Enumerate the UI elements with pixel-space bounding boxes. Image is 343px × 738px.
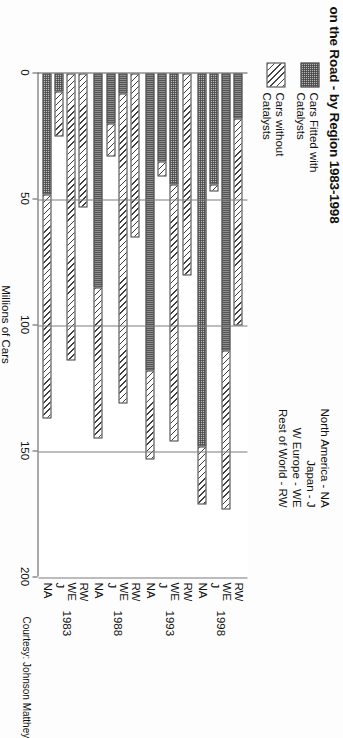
category-label-region: WE [65,582,77,601]
region-key-line: North America - NA [317,408,331,507]
category-label-region: WE [220,582,232,601]
courtesy-note: Courtesy: Johnson Matthey [20,616,31,738]
segment-without [197,446,206,504]
segment-fitted [197,73,206,446]
category-label-region: WE [168,582,180,601]
bar-1983-RW [78,73,87,207]
category-label-year: 1993 [163,610,175,636]
segment-without [182,73,191,275]
axis-tick [32,72,37,73]
segment-fitted [106,73,115,123]
segment-fitted [209,73,218,184]
axis-tick [32,450,37,451]
segment-without [169,184,178,441]
category-label-year: 1998 [214,610,226,636]
gridline [38,577,247,578]
gridline [38,325,247,326]
region-key-line: Japan - J [303,408,317,507]
bar-1998-NA [197,73,206,504]
segment-without [233,118,242,325]
legend-label-fitted: Cars Fitted with Catalysts [294,92,319,172]
segment-without [54,91,63,136]
segment-without [42,194,51,418]
region-key-line: W Europe - WE [289,408,303,507]
category-label-year: 1988 [111,610,123,636]
bar-1983-WE [66,73,75,360]
segment-fitted [221,73,230,350]
segment-fitted [42,73,51,194]
segment-fitted [169,73,178,184]
segment-without [78,73,87,207]
chart-legend: Cars Fitted with Catalysts Cars without … [251,62,319,172]
bar-bands [38,73,247,576]
category-label-region: J [105,582,117,588]
axis-tick [32,198,37,199]
region-key: North America - NA Japan - J W Europe - … [275,408,331,507]
bar-1983-NA [42,73,51,418]
category-label-region: RW [232,582,244,601]
legend-label-without: Cars without Catalysts [260,92,285,156]
category-label-region: NA [196,582,208,598]
category-label-region: NA [41,582,53,598]
axis-title: Millions of Cars [0,72,11,576]
bar-1988-RW [130,73,139,237]
category-label-region: J [156,582,168,588]
bar-1993-NA [145,73,154,459]
axis-tick-label: 100 [18,314,30,333]
segment-fitted [118,73,127,93]
category-label-region: J [53,582,65,588]
category-label-region: RW [77,582,89,601]
category-label-region: RW [129,582,141,601]
category-label-year: 1983 [60,610,72,636]
legend-item: Cars without Catalysts [260,62,285,172]
axis-tick-label: 200 [18,566,30,585]
legend-item: Cars Fitted with Catalysts [294,62,319,172]
region-key-line: Rest of World - RW [275,408,289,507]
category-label-region: NA [92,582,104,598]
gridline [38,199,247,200]
segment-without [130,73,139,237]
bar-1993-RW [182,73,191,275]
segment-without [118,93,127,403]
bar-1998-J [209,73,218,191]
segment-fitted [93,73,102,287]
gridline [38,451,247,452]
segment-fitted [233,73,242,118]
segment-without [145,370,154,458]
chart-title: on the Road - by Region 1983-1998 [326,6,341,476]
axis-tick [32,576,37,577]
axis-tick-label: 0 [18,69,30,75]
category-label-region: WE [117,582,129,601]
legend-swatch-fitted-icon [300,62,319,87]
bar-1998-WE [221,73,230,509]
segment-fitted [54,73,63,91]
segment-fitted [157,73,166,161]
legend-swatch-without-icon [266,62,285,87]
segment-without [209,184,218,192]
segment-without [106,123,115,156]
bar-1993-J [157,73,166,176]
axis-tick-label: 150 [18,440,30,459]
bar-1988-WE [118,73,127,403]
plot-area [37,72,247,576]
segment-without [93,287,102,438]
bar-1983-J [54,73,63,136]
segment-without [66,73,75,360]
category-label-region: J [208,582,220,588]
bar-1988-NA [93,73,102,438]
category-label-region: NA [144,582,156,598]
bar-1993-WE [169,73,178,441]
axis-tick-label: 50 [18,192,30,205]
category-label-region: RW [181,582,193,601]
axis-tick [32,324,37,325]
bar-1988-J [106,73,115,156]
segment-without [221,350,230,509]
segment-without [157,161,166,176]
